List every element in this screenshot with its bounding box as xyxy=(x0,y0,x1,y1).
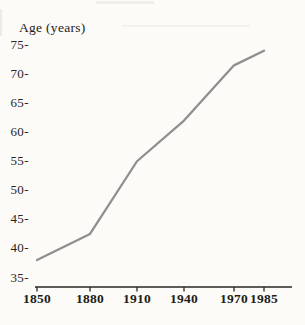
x-tick-label: 1910 xyxy=(123,291,151,307)
x-tick-label: 1970 xyxy=(220,291,248,307)
x-tick-label: 1985 xyxy=(250,291,278,307)
age-data-line xyxy=(37,51,264,260)
x-tick-label: 1880 xyxy=(76,291,104,307)
x-tick-label: 1940 xyxy=(170,291,198,307)
chart-svg xyxy=(0,0,305,325)
x-tick-label: 1850 xyxy=(23,291,51,307)
scanned-line-chart: Age (years) 75-70-65-60-55-50-45-40-35- … xyxy=(0,0,305,325)
